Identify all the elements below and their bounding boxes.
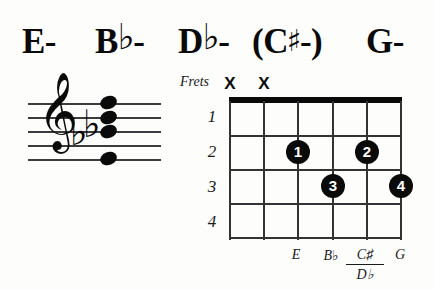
chord-name-0: E- [22,20,56,64]
fret-number-1: 1 [202,107,222,127]
chord-name-3: (C♯-) [252,20,322,64]
staff-line-1 [28,159,161,161]
notehead-4 [98,93,118,111]
fretboard-grid: 1 2 3 4 [229,97,402,240]
muted-string-marker-1: X [221,74,239,94]
chord-name-row: E- B♭- D♭- (C♯-) G- [0,20,434,72]
muted-string-marker-2: X [255,74,273,94]
chord-name-4: G- [366,20,404,64]
note-label-E: E [279,247,313,263]
string-line-5 [366,101,368,240]
enharmonic-bottom: D♭ [346,265,384,283]
string-line-3 [297,101,299,240]
note-label-Csharp-Dflat: C♯ D♭ [346,247,384,283]
nut [229,97,402,103]
guitar-chord-diagram: Frets 1 2 3 4 X X 1 2 3 4 E B♭ C♯ [178,72,428,287]
notehead-1 [98,149,118,167]
string-line-2 [263,101,265,240]
string-line-4 [332,101,334,240]
fret-line-4 [229,237,402,239]
fret-line-3 [229,203,402,205]
note-label-Bb: B♭ [314,247,348,264]
enharmonic-top: C♯ [346,247,384,265]
music-staff: 𝄞 ♭ ♭ [22,88,167,188]
fret-number-2: 2 [202,142,222,162]
chord-name-1: B♭- [95,20,145,64]
frets-label: Frets [180,74,209,90]
note-label-G: G [383,247,417,263]
fret-number-4: 4 [202,212,222,232]
string-line-6 [400,101,402,240]
fret-line-1 [229,135,402,137]
fret-number-3: 3 [202,177,222,197]
notehead-2 [98,122,118,140]
chord-name-2: D♭- [178,20,229,64]
finger-dot-1: 1 [286,140,310,164]
finger-dot-4: 4 [389,174,413,198]
finger-dot-2: 2 [355,140,379,164]
finger-dot-3: 3 [321,174,345,198]
chord-reference-page: E- B♭- D♭- (C♯-) G- 𝄞 ♭ ♭ Frets 1 2 3 4 … [0,0,434,289]
string-line-1 [229,101,231,240]
fret-line-2 [229,169,402,171]
